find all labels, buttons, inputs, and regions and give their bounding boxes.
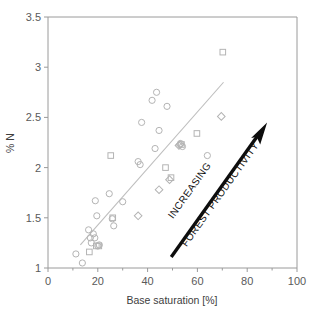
y-tick-label: 2 <box>35 162 41 174</box>
x-axis-title: Base saturation [%] <box>126 294 217 306</box>
chart-background <box>0 0 313 314</box>
x-tick-label: 60 <box>191 275 203 287</box>
x-tick-label: 80 <box>241 275 253 287</box>
y-tick-label: 1.5 <box>26 212 41 224</box>
chart-figure: 11.522.533.5 020406080100 INCREASING FOR… <box>0 0 313 314</box>
y-tick-label: 1 <box>35 262 41 274</box>
x-tick-label: 40 <box>141 275 153 287</box>
x-tick-label: 100 <box>288 275 306 287</box>
x-tick-label: 0 <box>45 275 51 287</box>
y-axis-title: % N <box>4 133 16 153</box>
x-tick-label: 20 <box>92 275 104 287</box>
y-tick-label: 3 <box>35 61 41 73</box>
y-tick-label: 3.5 <box>26 11 41 23</box>
scatter-plot: 11.522.533.5 020406080100 INCREASING FOR… <box>0 0 313 314</box>
y-tick-label: 2.5 <box>26 111 41 123</box>
